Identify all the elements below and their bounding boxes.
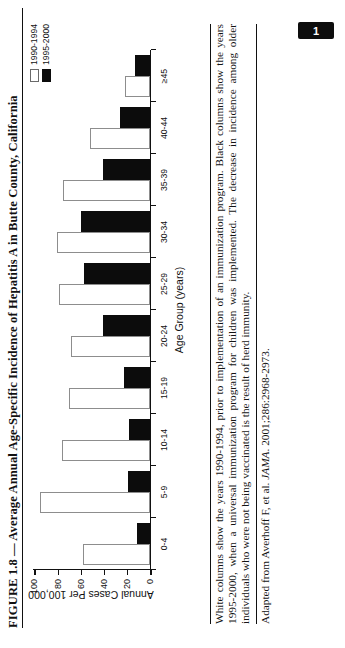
x-group-label-0-4: 0-4 bbox=[159, 538, 169, 550]
source-citation: . 2001;286:2968-2973. bbox=[259, 348, 271, 451]
x-tick-10 bbox=[151, 49, 156, 50]
y-axis-line bbox=[33, 569, 151, 570]
x-group-label-5-9: 5-9 bbox=[159, 486, 169, 498]
source-journal: JAMA bbox=[259, 452, 271, 480]
caption-text: White columns show the years 1990-1994, … bbox=[211, 24, 253, 624]
y-tick-label-0: 0 bbox=[145, 579, 155, 584]
bar-10-14-1990-1994 bbox=[62, 440, 150, 461]
y-tick-80: 80 bbox=[58, 570, 59, 575]
chart-area: 1990-1994 1995-2000 020406080100 0-45-91… bbox=[27, 14, 187, 626]
x-axis-title: Age Group (years) bbox=[173, 50, 185, 570]
bar-35-39-1995-2000 bbox=[103, 159, 149, 180]
bar-40-44-1995-2000 bbox=[120, 107, 150, 128]
caption-block: White columns show the years 1990-1994, … bbox=[210, 24, 286, 624]
bar-30-34-1990-1994 bbox=[57, 232, 150, 253]
bar-0-4-1995-2000 bbox=[137, 523, 150, 544]
bar-15-19-1995-2000 bbox=[124, 367, 150, 388]
bar-15-19-1990-1994 bbox=[69, 388, 150, 409]
x-group-label-35-39: 35-39 bbox=[159, 169, 169, 191]
y-tick-20: 20 bbox=[127, 570, 128, 575]
x-axis-line bbox=[150, 50, 151, 570]
x-group-label-30-34: 30-34 bbox=[159, 221, 169, 243]
bar-≥45-1990-1994 bbox=[125, 76, 149, 97]
bar-25-29-1995-2000 bbox=[84, 263, 150, 284]
x-tick-1 bbox=[151, 517, 156, 518]
bar-≥45-1995-2000 bbox=[135, 55, 150, 76]
figure-block: FIGURE 1.8 — Average Annual Age-Specific… bbox=[6, 8, 192, 628]
caption-source: Adapted from Averhoff F, et al. JAMA. 20… bbox=[257, 24, 272, 624]
x-group-label-≥45: ≥45 bbox=[159, 69, 169, 83]
x-tick-3 bbox=[151, 413, 156, 414]
bar-20-24-1990-1994 bbox=[71, 336, 150, 357]
x-group-label-40-44: 40-44 bbox=[159, 117, 169, 139]
x-tick-0 bbox=[151, 569, 156, 570]
title-divider bbox=[22, 8, 23, 628]
y-tick-100: 100 bbox=[34, 570, 35, 575]
x-tick-5 bbox=[151, 309, 156, 310]
bar-30-34-1995-2000 bbox=[81, 211, 149, 232]
y-tick-label-60: 60 bbox=[76, 579, 86, 589]
plot-region: 020406080100 0-45-910-1415-1920-2425-293… bbox=[33, 50, 151, 570]
y-tick-label-80: 80 bbox=[53, 579, 63, 589]
y-tick-label-20: 20 bbox=[122, 579, 132, 589]
y-tick-40: 40 bbox=[104, 570, 105, 575]
x-group-label-10-14: 10-14 bbox=[159, 429, 169, 451]
x-group-label-20-24: 20-24 bbox=[159, 325, 169, 347]
source-prefix: Adapted from Averhoff F, et al. bbox=[259, 480, 271, 624]
bar-35-39-1990-1994 bbox=[63, 180, 150, 201]
y-tick-0: 0 bbox=[150, 570, 151, 575]
bar-5-9-1990-1994 bbox=[40, 492, 150, 513]
figure-title: FIGURE 1.8 — Average Annual Age-Specific… bbox=[6, 8, 22, 628]
bar-5-9-1995-2000 bbox=[128, 471, 150, 492]
x-tick-8 bbox=[151, 153, 156, 154]
x-group-label-15-19: 15-19 bbox=[159, 377, 169, 399]
bar-0-4-1990-1994 bbox=[83, 544, 150, 565]
bar-25-29-1990-1994 bbox=[59, 284, 149, 305]
x-tick-4 bbox=[151, 361, 156, 362]
x-tick-9 bbox=[151, 101, 156, 102]
bar-20-24-1995-2000 bbox=[103, 315, 149, 336]
x-tick-7 bbox=[151, 205, 156, 206]
page-canvas: FIGURE 1.8 — Average Annual Age-Specific… bbox=[0, 0, 345, 648]
y-tick-label-40: 40 bbox=[99, 579, 109, 589]
y-axis-title: Annual Cases Per 100,000 bbox=[16, 589, 166, 601]
x-group-label-25-29: 25-29 bbox=[159, 273, 169, 295]
y-tick-60: 60 bbox=[81, 570, 82, 575]
bar-10-14-1995-2000 bbox=[129, 419, 150, 440]
page-number-badge: 1 bbox=[298, 22, 334, 39]
x-tick-2 bbox=[151, 465, 156, 466]
bar-40-44-1990-1994 bbox=[90, 128, 150, 149]
x-tick-6 bbox=[151, 257, 156, 258]
